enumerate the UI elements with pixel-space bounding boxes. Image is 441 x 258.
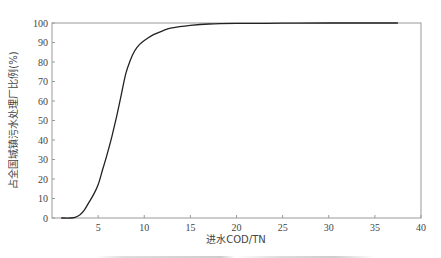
x-tick-label: 40 bbox=[416, 222, 426, 233]
x-tick-label: 20 bbox=[232, 222, 242, 233]
y-tick-label: 30 bbox=[38, 154, 48, 165]
y-tick-label: 0 bbox=[43, 213, 48, 224]
plot-frame bbox=[52, 23, 421, 218]
x-tick-label: 10 bbox=[139, 222, 149, 233]
y-tick-label: 60 bbox=[38, 96, 48, 107]
y-tick-label: 10 bbox=[38, 193, 48, 204]
y-tick-label: 100 bbox=[33, 18, 48, 29]
x-tick-label: 5 bbox=[96, 222, 101, 233]
x-tick-label: 25 bbox=[278, 222, 288, 233]
y-tick-label: 20 bbox=[38, 174, 48, 185]
x-tick-label: 30 bbox=[324, 222, 334, 233]
y-tick-label: 80 bbox=[38, 57, 48, 68]
cropped-caption bbox=[95, 252, 375, 258]
x-axis-label: 进水COD/TN bbox=[206, 234, 266, 245]
y-tick-label: 90 bbox=[38, 37, 48, 48]
y-tick-label: 50 bbox=[38, 115, 48, 126]
y-axis-label: 占全国城镇污水处理厂比例(%) bbox=[7, 51, 19, 188]
y-tick-label: 70 bbox=[38, 76, 48, 87]
x-tick-label: 35 bbox=[370, 222, 380, 233]
data-line bbox=[61, 23, 398, 218]
cumulative-line-chart: 0102030405060708090100 510152025303540 进… bbox=[0, 0, 441, 258]
y-tick-label: 40 bbox=[38, 135, 48, 146]
x-tick-label: 15 bbox=[185, 222, 195, 233]
